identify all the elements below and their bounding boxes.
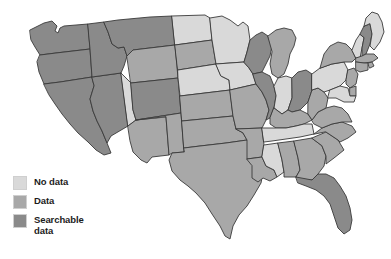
map-legend: No data Data Searchable data xyxy=(13,176,121,236)
state-NJ[interactable]: New Jersey xyxy=(346,68,358,88)
legend-item-data: Data xyxy=(13,195,121,209)
legend-swatch-no-data xyxy=(13,176,27,190)
us-data-availability-map: Washington Oregon California Nevada Idah… xyxy=(0,0,391,259)
state-WY[interactable]: Wyoming xyxy=(127,45,178,83)
legend-swatch-data xyxy=(13,195,27,209)
state-RI[interactable]: Rhode Island xyxy=(368,62,374,68)
state-FL[interactable]: Florida xyxy=(296,174,352,234)
state-MI[interactable]: Michigan xyxy=(268,28,296,78)
legend-swatch-searchable-data xyxy=(13,214,27,228)
state-MN[interactable]: Minnesota xyxy=(210,16,250,64)
legend-label-no-data: No data xyxy=(34,176,68,188)
legend-item-no-data: No data xyxy=(13,176,121,190)
legend-item-searchable-data: Searchable data xyxy=(13,214,121,236)
legend-label-data: Data xyxy=(34,195,54,207)
state-CO[interactable]: Colorado xyxy=(131,78,181,120)
state-CT[interactable]: Connecticut xyxy=(356,62,368,72)
legend-label-searchable-data: Searchable data xyxy=(34,214,84,236)
state-DE[interactable]: Delaware xyxy=(350,86,356,96)
state-AZ[interactable]: Arizona xyxy=(128,117,169,163)
